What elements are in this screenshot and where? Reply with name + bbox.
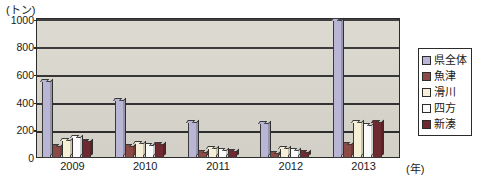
bar-top-face: [70, 135, 79, 138]
legend-item-label: 魚津: [434, 71, 456, 82]
bar-top-face: [133, 141, 142, 144]
bar: [300, 152, 309, 158]
bar-side-face: [268, 121, 271, 157]
bar-side-face: [133, 143, 136, 156]
bar: [82, 141, 91, 158]
bar-top-face: [351, 120, 360, 123]
bar-top-face: [258, 121, 267, 124]
x-axis-tick-label: 2010: [109, 160, 182, 172]
bar-side-face: [50, 79, 53, 157]
bar: [155, 144, 164, 158]
x-axis-unit-label: (年): [406, 160, 424, 176]
bar: [270, 153, 279, 158]
x-axis-tick-label: 2011: [182, 160, 255, 172]
y-axis-tick-label: 800: [0, 42, 34, 52]
bar-top-face: [331, 18, 340, 21]
legend-swatch-icon: [422, 88, 431, 97]
bar-side-face: [60, 143, 63, 156]
bar-group: [260, 18, 309, 158]
bar: [115, 100, 124, 158]
legend-item-label: 県全体: [434, 55, 467, 66]
bar-group: [42, 18, 91, 158]
bar-side-face: [308, 150, 311, 157]
bar-groups: [36, 18, 400, 158]
bar-top-face: [205, 146, 214, 149]
legend-swatch-icon: [422, 72, 431, 81]
legend-item-label: 四方: [434, 103, 456, 114]
bar-group: [115, 18, 164, 158]
legend-item-label: 滑川: [434, 87, 456, 98]
bar-side-face: [381, 120, 384, 156]
bar-side-face: [90, 139, 93, 157]
bar: [42, 81, 51, 158]
bar: [145, 145, 154, 158]
legend-item-label: 新湊: [434, 119, 456, 130]
y-axis-ticks: 2004006008001000: [0, 18, 34, 158]
bar-side-face: [123, 98, 126, 156]
bar: [52, 146, 61, 158]
x-axis-tick-label: 2012: [254, 160, 327, 172]
legend-item[interactable]: 新湊: [422, 116, 467, 132]
bar-group: [333, 18, 382, 158]
bar-side-face: [153, 143, 156, 156]
bar: [62, 140, 71, 158]
bar-side-face: [196, 120, 199, 156]
bar-side-face: [143, 141, 146, 157]
y-axis-tick-label: 200: [0, 125, 34, 135]
bar: [333, 20, 342, 158]
y-axis-tick-label: 1000: [0, 15, 34, 25]
bar-side-face: [163, 142, 166, 156]
bar-top-face: [113, 98, 122, 101]
bar-chart: (トン) 2004006008001000 200920102011201220…: [0, 0, 487, 187]
bar-side-face: [341, 18, 344, 156]
bar: [353, 122, 362, 158]
legend-swatch-icon: [422, 120, 431, 129]
y-axis-tick-label: 600: [0, 70, 34, 80]
bar: [290, 150, 299, 158]
legend-swatch-icon: [422, 104, 431, 113]
bar: [135, 143, 144, 158]
bar: [280, 148, 289, 158]
x-axis-labels: 20092010201120122013: [36, 160, 400, 180]
chart-legend: 県全体魚津滑川四方新湊: [418, 48, 472, 136]
legend-swatch-icon: [422, 56, 431, 65]
bar-top-face: [60, 138, 69, 141]
x-axis-tick-label: 2009: [36, 160, 109, 172]
bar: [72, 137, 81, 158]
bar: [373, 122, 382, 158]
bar: [343, 144, 352, 158]
bar: [188, 122, 197, 158]
legend-item[interactable]: 県全体: [422, 52, 467, 68]
x-axis-tick-label: 2013: [327, 160, 400, 172]
bar-side-face: [70, 138, 73, 156]
legend-item[interactable]: 魚津: [422, 68, 467, 84]
bar: [260, 123, 269, 158]
bar-side-face: [361, 120, 364, 156]
bar: [125, 146, 134, 158]
bar-top-face: [185, 120, 194, 123]
bar-group: [188, 18, 237, 158]
bar-side-face: [80, 134, 83, 156]
y-axis-tick-label: 400: [0, 98, 34, 108]
bar-side-face: [371, 123, 374, 156]
bar-side-face: [216, 145, 219, 156]
legend-item[interactable]: 滑川: [422, 84, 467, 100]
bar-top-face: [40, 79, 49, 82]
legend-item[interactable]: 四方: [422, 100, 467, 116]
bar-top-face: [278, 146, 287, 149]
bar: [363, 125, 372, 158]
bar-side-face: [236, 149, 239, 156]
y-axis-tick-label-zero: 0: [0, 152, 34, 164]
